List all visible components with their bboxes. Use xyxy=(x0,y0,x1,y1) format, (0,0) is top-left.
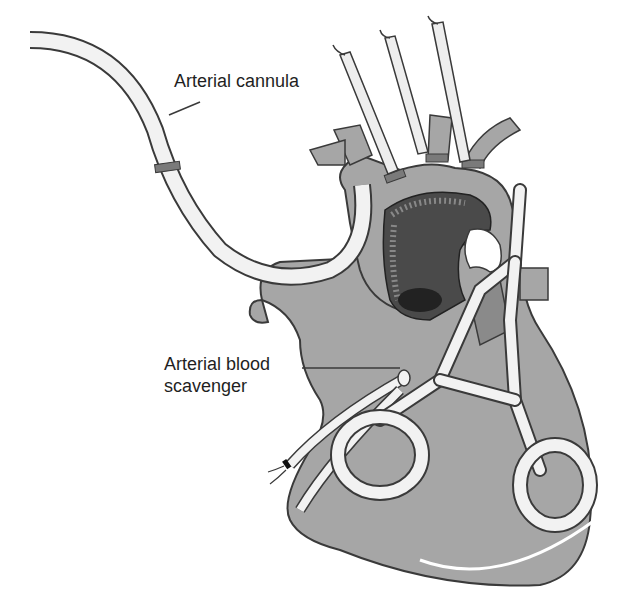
label-arterial-blood-scavenger: Arterial blood scavenger xyxy=(164,353,270,397)
label-line-1: Arterial blood xyxy=(164,353,270,375)
label-line-2: scavenger xyxy=(164,375,270,397)
heart-illustration xyxy=(0,0,624,602)
label-arterial-cannula: Arterial cannula xyxy=(174,70,299,92)
diagram-canvas: Arterial cannula Arterial blood scavenge… xyxy=(0,0,624,602)
